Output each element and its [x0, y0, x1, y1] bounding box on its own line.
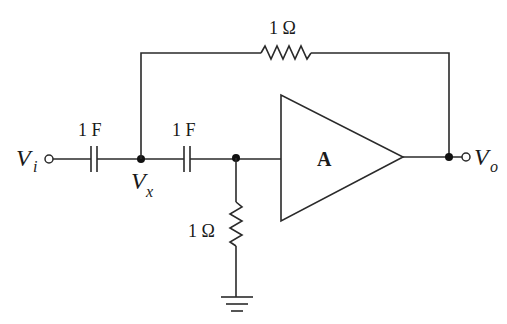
svg-text:V: V: [474, 144, 491, 170]
svg-text:x: x: [145, 183, 153, 200]
input-capacitor: [91, 146, 97, 172]
shunt-resistor-label: 1 Ω: [188, 221, 215, 241]
output-terminal: [462, 153, 470, 161]
ground-icon: [221, 297, 253, 311]
series-capacitor-label: 1 F: [172, 120, 196, 140]
output-node-label: V o: [474, 144, 498, 175]
feedback-resistor-label: 1 Ω: [269, 18, 296, 38]
amplifier-label: A: [317, 148, 332, 170]
input-node-label: V i: [16, 145, 37, 175]
amplifier-triangle: [281, 95, 403, 221]
input-terminal: [45, 155, 53, 163]
vx-node-label: V x: [131, 168, 153, 200]
svg-text:V: V: [16, 145, 33, 171]
circuit-diagram: V i 1 F V x 1 Ω 1 F 1 Ω A: [0, 0, 507, 324]
feedback-resistor: [261, 46, 311, 59]
svg-text:o: o: [490, 158, 498, 175]
shunt-resistor: [230, 202, 242, 246]
series-capacitor: [184, 146, 190, 172]
wire-feedback-left: [141, 53, 261, 159]
input-capacitor-label: 1 F: [78, 120, 102, 140]
output-node-dot: [445, 153, 453, 161]
svg-text:i: i: [33, 158, 37, 175]
